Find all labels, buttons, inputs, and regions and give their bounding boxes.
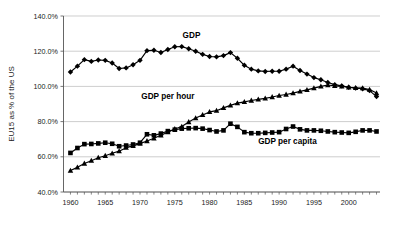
x-axis-tick-label: 1995 — [306, 198, 322, 207]
y-axis-tick-label: 40.0% — [38, 188, 59, 197]
y-axis-tick-label: 80.0% — [38, 117, 59, 126]
data-point-marker — [96, 141, 101, 146]
y-axis-title: EU15 as % of the US — [7, 66, 16, 142]
data-point-marker — [353, 130, 358, 135]
data-point-marker — [179, 126, 184, 131]
data-point-marker — [277, 130, 282, 135]
x-axis-tick-label: 1990 — [271, 198, 287, 207]
data-point-marker — [172, 127, 177, 132]
y-axis-tick-label: 100.0% — [34, 82, 59, 91]
data-point-marker — [242, 130, 247, 135]
data-point-marker — [221, 128, 226, 133]
data-point-marker — [346, 131, 351, 136]
data-point-marker — [256, 131, 261, 136]
x-axis-tick-label: 1985 — [236, 198, 252, 207]
data-point-marker — [117, 144, 122, 149]
data-point-marker — [68, 151, 73, 156]
x-axis-tick-label: 1965 — [97, 198, 113, 207]
data-point-marker — [332, 130, 337, 135]
data-point-marker — [159, 131, 164, 136]
data-point-marker — [298, 127, 303, 132]
data-point-marker — [131, 142, 136, 147]
x-axis-tick-label: 2000 — [341, 198, 357, 207]
series-annotation-gdp-per-capita: GDP per capita — [258, 137, 317, 146]
data-point-marker — [367, 128, 372, 133]
y-axis-tick-label: 120.0% — [34, 47, 59, 56]
data-point-marker — [124, 143, 129, 148]
data-point-marker — [89, 142, 94, 147]
data-point-marker — [319, 128, 324, 133]
data-point-marker — [193, 126, 198, 131]
gdp-comparison-line-chart: 140.0%120.0%100.0%80.0%60.0%40.0% 196019… — [0, 0, 393, 229]
data-point-marker — [186, 126, 191, 131]
y-axis-tick-label: 140.0% — [34, 12, 59, 21]
data-point-marker — [103, 140, 108, 145]
data-point-marker — [235, 125, 240, 130]
data-point-marker — [305, 128, 310, 133]
x-axis-tick-label: 1975 — [167, 198, 183, 207]
data-point-marker — [339, 130, 344, 135]
data-point-marker — [374, 129, 379, 134]
data-point-marker — [166, 129, 171, 134]
data-point-marker — [249, 131, 254, 136]
data-point-marker — [152, 133, 157, 138]
data-point-marker — [263, 131, 268, 136]
data-point-marker — [145, 132, 150, 137]
x-axis-tick-label: 1980 — [202, 198, 218, 207]
x-axis-tick-label: 1960 — [62, 198, 78, 207]
data-point-marker — [270, 130, 275, 135]
x-axis-tick-label: 1970 — [132, 198, 148, 207]
data-point-marker — [75, 146, 80, 151]
data-point-marker — [82, 142, 87, 147]
data-point-marker — [312, 128, 317, 133]
data-point-marker — [138, 140, 143, 145]
data-point-marker — [207, 128, 212, 133]
data-point-marker — [291, 124, 296, 129]
data-point-marker — [360, 128, 365, 133]
data-point-marker — [228, 121, 233, 126]
series-annotation-gdp-per-hour: GDP per hour — [141, 92, 195, 101]
series-annotation-gdp: GDP — [183, 31, 201, 40]
data-point-marker — [284, 127, 289, 132]
data-point-marker — [326, 129, 331, 134]
y-axis-tick-label: 60.0% — [38, 152, 59, 161]
y-axis-title-text: EU15 as % of the US — [7, 66, 16, 142]
chart-container: 140.0%120.0%100.0%80.0%60.0%40.0% 196019… — [0, 0, 393, 229]
data-point-marker — [110, 141, 115, 146]
x-axis-tick-labels: 196019651970197519801985199019952000 — [62, 198, 356, 207]
data-point-marker — [200, 126, 205, 131]
data-point-marker — [214, 129, 219, 134]
